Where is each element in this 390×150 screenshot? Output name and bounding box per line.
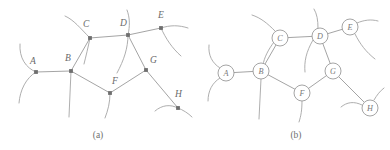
dangling-edge-C-2	[252, 15, 275, 31]
vertex-label-B: B	[65, 53, 71, 63]
vertex-H[interactable]	[176, 106, 180, 110]
dangling-edge-E-7	[161, 26, 188, 28]
vertex-E[interactable]	[159, 26, 163, 30]
dangling-edge-E-7	[357, 20, 378, 23]
dangling-edge-B-4	[69, 71, 71, 117]
edge-G-H	[339, 77, 365, 103]
edge-G-H	[146, 70, 178, 108]
vertex-label-F: F	[111, 76, 118, 86]
dangling-edge-C-3	[263, 42, 274, 65]
edge-D-G	[128, 35, 146, 70]
dangling-edge-F-9	[105, 93, 110, 118]
figure-container: ABCDEFGH ABCDEFGH (a) (b)	[0, 0, 390, 150]
dangling-edge-A-1	[19, 72, 36, 103]
dangling-edge-E-8	[161, 28, 181, 56]
vertex-label-D: D	[119, 18, 127, 28]
vertex-label-B: B	[258, 67, 263, 76]
vertex-C[interactable]	[88, 36, 92, 40]
edge-D-G	[323, 43, 330, 63]
vertex-label-C: C	[83, 19, 90, 29]
dangling-edge-A-0	[209, 45, 220, 68]
figure-svg: ABCDEFGH ABCDEFGH (a) (b)	[0, 0, 390, 150]
dangling-edge-H-10	[155, 106, 178, 111]
edge-B-F	[71, 71, 110, 93]
vertex-label-H: H	[366, 104, 374, 113]
edge-C-D	[90, 35, 128, 38]
panel-a-caption: (a)	[93, 130, 104, 141]
edge-B-F	[268, 75, 295, 89]
vertex-label-G: G	[150, 55, 157, 65]
edge-D-E	[128, 28, 161, 35]
vertex-A[interactable]	[34, 70, 38, 74]
dangling-edge-H-11	[178, 108, 192, 117]
edge-C-D	[288, 36, 312, 37]
vertex-D[interactable]	[126, 33, 130, 37]
vertex-label-A: A	[222, 69, 229, 78]
vertex-F[interactable]	[108, 91, 112, 95]
dangling-edge-D-5	[314, 9, 318, 28]
vertex-label-A: A	[29, 56, 36, 66]
vertex-label-E: E	[346, 23, 352, 32]
vertex-B[interactable]	[69, 69, 73, 73]
panel-b: ABCDEFGH	[208, 9, 384, 122]
vertex-label-E: E	[157, 10, 164, 20]
vertex-label-C: C	[277, 34, 283, 43]
edge-B-C	[71, 38, 90, 71]
vertex-label-F: F	[298, 89, 305, 98]
vertex-label-D: D	[316, 32, 323, 41]
dangling-edge-E-8	[355, 34, 375, 59]
dangling-edge-H-10	[341, 103, 362, 107]
edge-D-E	[328, 29, 343, 33]
dangling-edge-H-11	[374, 88, 384, 100]
vertex-label-H: H	[174, 89, 183, 99]
dangling-edge-F-9	[299, 101, 302, 122]
dangling-edge-C-3	[84, 38, 90, 64]
panel-b-caption: (b)	[290, 130, 301, 141]
dangling-edge-A-1	[208, 78, 220, 101]
edge-A-B	[36, 71, 71, 72]
edge-A-B	[234, 71, 253, 72]
dangling-edge-D-6	[305, 40, 313, 72]
dangling-edge-D-5	[127, 10, 129, 35]
panel-a: ABCDEFGH	[19, 10, 192, 118]
dangling-edge-B-4	[259, 79, 261, 119]
edge-F-G	[309, 76, 327, 89]
dangling-edge-D-6	[117, 35, 128, 73]
vertex-G[interactable]	[144, 68, 148, 72]
vertex-label-G: G	[330, 67, 336, 76]
